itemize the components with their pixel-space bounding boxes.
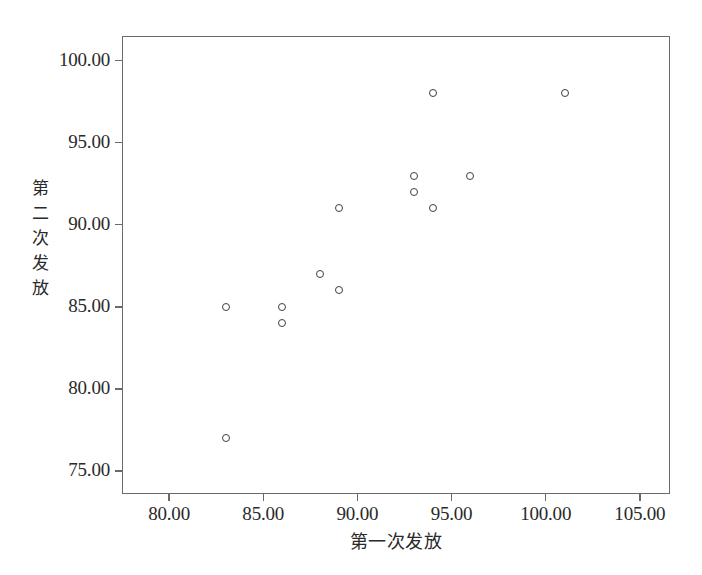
x-axis-tick: [639, 494, 640, 501]
x-axis-title: 第一次发放: [122, 527, 670, 553]
x-axis-tick: [357, 494, 358, 501]
y-axis-tick-label: 80.00: [0, 377, 110, 399]
y-axis-tick-label: 100.00: [0, 49, 110, 71]
x-axis-tick: [545, 494, 546, 501]
y-axis-tick-label: 75.00: [0, 459, 110, 481]
y-axis-tick: [115, 306, 122, 307]
x-axis-tick: [168, 494, 169, 501]
y-axis-tick-label: 95.00: [0, 131, 110, 153]
y-axis-tick-label: 85.00: [0, 295, 110, 317]
plot-area-frame: [122, 36, 670, 494]
y-axis-tick-label: 90.00: [0, 213, 110, 235]
x-axis-tick-label: 105.00: [580, 503, 700, 525]
bottom-caption: [0, 566, 702, 575]
x-axis-tick: [451, 494, 452, 501]
y-axis-tick: [115, 142, 122, 143]
y-axis-tick: [115, 388, 122, 389]
y-axis-tick: [115, 224, 122, 225]
y-axis-tick: [115, 470, 122, 471]
y-axis-title: 第二次发放: [28, 176, 52, 301]
scatter-chart: 第二次发放 第一次发放 80.0085.0090.0095.00100.0010…: [0, 0, 702, 575]
x-axis-tick: [263, 494, 264, 501]
y-axis-tick: [115, 60, 122, 61]
